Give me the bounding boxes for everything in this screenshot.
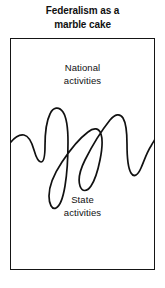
figure-title-line-2: marble cake [0,18,165,32]
national-activities-line-1: National [10,61,155,74]
state-activities-line-1: State [10,193,155,206]
figure-title: Federalism as a marble cake [0,4,165,32]
state-activities-line-2: activities [10,206,155,219]
marble-cake-figure: Federalism as a marble cake National act… [0,0,165,288]
figure-title-line-1: Federalism as a [0,4,165,18]
national-activities-label: National activities [10,61,155,87]
national-activities-line-2: activities [10,74,155,87]
state-activities-label: State activities [10,193,155,219]
